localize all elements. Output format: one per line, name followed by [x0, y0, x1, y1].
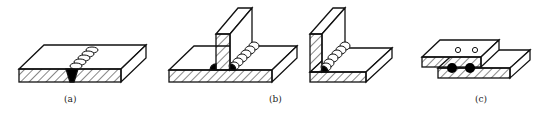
- panel-label-a: (a): [64, 94, 76, 104]
- corner-joint-figure: [310, 8, 392, 82]
- t-joint-figure: [169, 8, 297, 82]
- butt-joint-figure: [19, 45, 146, 82]
- panel-label-b: (b): [269, 94, 282, 104]
- lap-joint-figure: [422, 40, 530, 78]
- panel-label-c: (c): [475, 94, 487, 104]
